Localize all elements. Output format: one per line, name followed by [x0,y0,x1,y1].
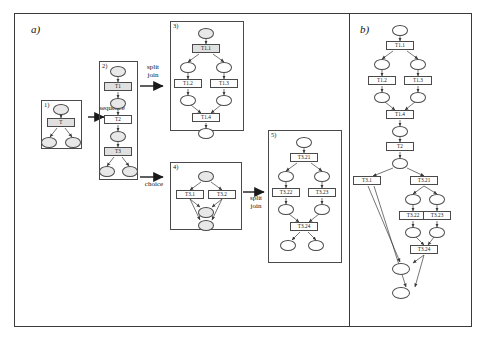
panel-divider [349,13,350,327]
transition-g4-T3-1: T3.1 [176,190,204,199]
transition-g5-T3-21: T3.21 [290,153,318,162]
panel-label-a: a) [31,23,40,35]
place-b-right-1 [410,59,426,70]
transition-g3-T1-1: T1.1 [192,44,220,53]
place-b-right-4 [429,227,445,238]
transition-b-T2: T2 [386,142,414,151]
place-g5-right-1 [314,171,330,182]
place-g5-out-right [308,240,324,251]
place-g3-right-1 [216,62,232,73]
relation-split-join-1-line1: split [135,63,171,71]
place-g5-left-1 [278,171,294,182]
place-g5-right-2 [314,204,330,215]
transition-g5-T3-22: T3.22 [272,188,300,197]
group-3-number: 3) [173,22,178,30]
place-b-left-2 [374,92,390,103]
relation-choice: choice [136,180,172,188]
place-g3-right-2 [216,95,232,106]
transition-b-T1-3: T1.3 [404,76,432,85]
place-b-right-3 [429,194,445,205]
place-g3-out [198,128,214,139]
transition-b-T3-1: T3.1 [353,176,381,185]
transition-g1-T: T [47,118,75,127]
place-g2-p1 [110,98,126,109]
transition-g2-T1: T1 [104,82,132,91]
place-g5-left-2 [278,204,294,215]
figure-root: a) b) 1) T sequence 2) T1 T2 T3 split jo… [0,0,485,339]
place-b-in [392,25,408,36]
place-g3-left-1 [180,62,196,73]
place-g3-left-2 [180,95,196,106]
transition-b-T1-2: T1.2 [368,76,396,85]
place-g5-out-left [280,240,296,251]
place-g4-out-1 [198,207,214,218]
place-g1-out-right [65,137,81,148]
transition-g4-T3-2: T3.2 [208,190,236,199]
place-b-left-3 [405,194,421,205]
transition-g3-T1-4: T1.4 [192,113,220,122]
place-g2-out-right [122,166,138,177]
place-g1-out-left [41,137,57,148]
group-1-number: 1) [44,101,49,109]
transition-b-T3-23: T3.23 [423,211,451,220]
transition-g5-T3-24: T3.24 [290,222,318,231]
place-g1-in [53,104,69,115]
place-g2-p2 [110,131,126,142]
group-2-number: 2) [102,62,107,70]
place-b-left-1 [374,59,390,70]
place-b-out-1 [392,263,410,275]
place-b-mid-1 [392,126,408,137]
transition-b-T3-21: T3.21 [410,176,438,185]
place-b-out-2 [392,287,410,299]
place-b-left-4 [405,227,421,238]
transition-g5-T3-23: T3.23 [308,188,336,197]
relation-split-join-1-line2: join [135,71,171,79]
transition-b-T1-1: T1.1 [386,41,414,50]
relation-split-join-1: split join [135,63,171,79]
transition-g3-T1-3: T1.3 [210,79,238,88]
group-4-number: 4) [173,163,178,171]
place-g2-out-left [99,166,115,177]
place-g3-in [198,28,214,39]
transition-g2-T2: T2 [104,115,132,124]
transition-b-T3-24: T3.24 [410,245,438,254]
transition-b-T1-4: T1.4 [386,110,414,119]
place-g5-in [296,137,312,148]
place-b-mid-2 [392,158,408,169]
transition-g3-T1-2: T1.2 [174,79,202,88]
panel-label-b: b) [360,23,369,35]
group-5-number: 5) [271,131,276,139]
transition-g2-T3: T3 [104,147,132,156]
place-g2-p0 [110,66,126,77]
place-g4-in [198,171,214,182]
place-g4-out-2 [198,220,214,231]
place-b-right-2 [410,92,426,103]
